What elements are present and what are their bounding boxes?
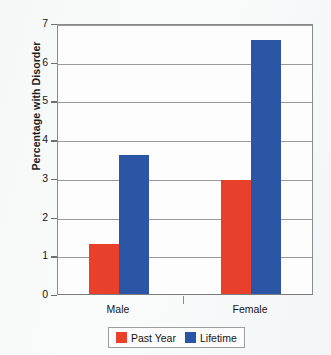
x-tick-label-male: Male — [73, 303, 163, 315]
legend-label-lifetime: Lifetime — [200, 332, 237, 344]
legend-swatch-icon-past-year — [116, 332, 127, 343]
y-tick-label: 2 — [8, 211, 48, 223]
y-tick-label: 6 — [8, 56, 48, 68]
y-tick-label: 7 — [8, 17, 48, 29]
bar-chart: Percentage with Disorder 76543210 MaleFe… — [0, 0, 331, 355]
y-tick-label: 3 — [8, 172, 48, 184]
legend-entry-lifetime[interactable]: Lifetime — [185, 332, 237, 344]
legend: Past Year Lifetime — [108, 327, 245, 348]
legend-swatch-icon-lifetime — [185, 332, 196, 343]
y-tick-label: 5 — [8, 94, 48, 106]
gridline — [58, 25, 312, 26]
x-axis-separator-tick — [183, 296, 184, 304]
x-tick-label-female: Female — [205, 303, 295, 315]
y-tick-mark — [51, 295, 57, 296]
bar-male-lifetime — [119, 155, 149, 294]
bar-female-lifetime — [251, 40, 281, 294]
legend-label-past-year: Past Year — [131, 332, 176, 344]
bar-male-past-year — [89, 244, 119, 294]
plot-area — [57, 24, 313, 295]
legend-entry-past-year[interactable]: Past Year — [116, 332, 176, 344]
bar-female-past-year — [221, 180, 251, 294]
y-tick-label: 1 — [8, 249, 48, 261]
y-tick-label: 4 — [8, 133, 48, 145]
y-tick-label: 0 — [8, 288, 48, 300]
